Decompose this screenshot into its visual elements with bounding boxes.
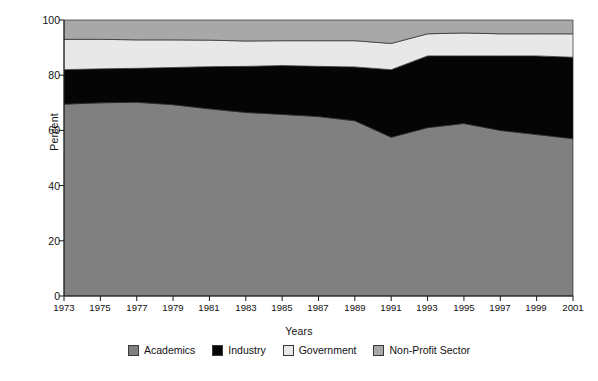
legend-item-non-profit-sector: Non-Profit Sector	[373, 344, 470, 356]
area-series-academics	[64, 102, 573, 296]
legend-swatch-academics	[128, 345, 139, 356]
x-tick-label-1985: 1985	[262, 302, 302, 313]
legend-label-government: Government	[299, 344, 357, 356]
x-tick-label-1973: 1973	[44, 302, 84, 313]
legend-label-industry: Industry	[228, 344, 265, 356]
x-tick-label-1991: 1991	[371, 302, 411, 313]
x-tick-label-1975: 1975	[80, 302, 120, 313]
area-series-group	[64, 20, 573, 296]
x-tick-label-1979: 1979	[153, 302, 193, 313]
x-tick-label-1993: 1993	[407, 302, 447, 313]
legend-label-academics: Academics	[144, 344, 195, 356]
x-tick-label-1989: 1989	[335, 302, 375, 313]
legend-item-government: Government	[283, 344, 357, 356]
x-tick-label-1999: 1999	[516, 302, 556, 313]
x-tick-label-1981: 1981	[189, 302, 229, 313]
legend-swatch-government	[283, 345, 294, 356]
x-tick-label-1995: 1995	[444, 302, 484, 313]
legend-swatch-non-profit-sector	[373, 345, 384, 356]
stacked-area-chart: Percent 100 80 60 40 20 0 1973 1975 1977…	[0, 0, 598, 381]
chart-legend: Academics Industry Government Non-Profit…	[0, 344, 598, 356]
plot-area	[0, 0, 598, 381]
legend-item-academics: Academics	[128, 344, 195, 356]
x-axis-title: Years	[0, 325, 598, 337]
x-tick-label-1983: 1983	[226, 302, 266, 313]
legend-label-non-profit-sector: Non-Profit Sector	[389, 344, 470, 356]
x-tick-label-1987: 1987	[298, 302, 338, 313]
x-tick-label-1997: 1997	[480, 302, 520, 313]
legend-item-industry: Industry	[212, 344, 265, 356]
x-tick-label-1977: 1977	[117, 302, 157, 313]
x-tick-label-2001: 2001	[553, 302, 593, 313]
legend-swatch-industry	[212, 345, 223, 356]
